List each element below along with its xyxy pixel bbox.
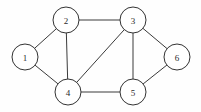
graph-node-1: 1 [12,44,38,70]
graph-node-label-4: 4 [66,88,71,98]
graph-edge-1-2 [35,29,57,49]
graph-node-5: 5 [120,79,146,105]
graph-node-label-5: 5 [131,88,136,98]
graph-edge-3-4 [77,30,125,83]
graph-edge-2-4 [66,33,67,79]
graph-node-2: 2 [53,7,79,33]
graph-node-6: 6 [164,44,190,70]
graph-edge-3-6 [143,28,167,48]
graph-node-4: 4 [55,79,81,105]
graph-node-label-6: 6 [175,53,180,63]
graph-edge-5-6 [143,65,167,84]
graph-canvas: 123456 [0,0,201,112]
graph-figure: 123456 [0,0,201,112]
edge-layer [35,20,167,92]
graph-edge-1-4 [35,65,58,84]
graph-node-label-1: 1 [23,53,28,63]
graph-node-3: 3 [120,7,146,33]
graph-node-label-2: 2 [64,16,69,26]
graph-node-label-3: 3 [131,16,136,26]
